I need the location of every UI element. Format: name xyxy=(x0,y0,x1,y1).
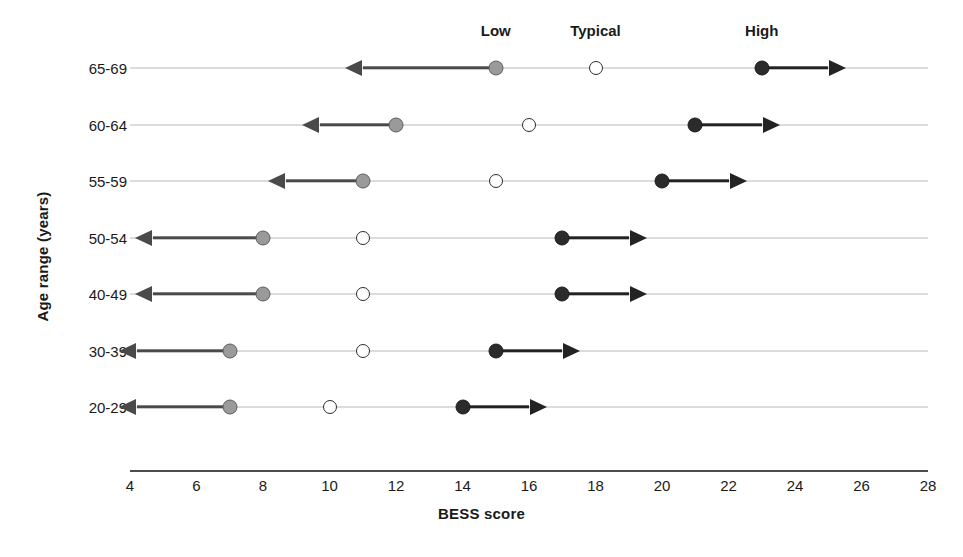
high-range-arrow xyxy=(496,349,563,353)
table-row: 50-54 xyxy=(0,225,963,251)
arrow-head-right-icon xyxy=(630,286,647,302)
table-row: 30-39 xyxy=(0,338,963,364)
arrow-shaft xyxy=(496,349,563,352)
arrow-head-right-icon xyxy=(730,173,747,189)
arrow-shaft xyxy=(153,236,263,239)
y-axis-tick-label: 60-64 xyxy=(55,116,127,133)
y-axis-tick-label: 20-29 xyxy=(55,399,127,416)
low-marker xyxy=(488,61,503,76)
x-axis-tick-label: 24 xyxy=(787,477,804,494)
low-marker xyxy=(256,230,271,245)
legend-label-low: Low xyxy=(481,22,511,39)
x-axis-tick-label: 14 xyxy=(454,477,471,494)
arrow-shaft xyxy=(463,405,530,408)
arrow-shaft xyxy=(137,405,230,408)
high-range-arrow xyxy=(762,66,829,70)
y-axis-tick-label: 30-39 xyxy=(55,342,127,359)
row-baseline xyxy=(130,407,928,408)
arrow-head-left-icon xyxy=(302,117,319,133)
low-range-arrow xyxy=(363,66,496,70)
high-range-arrow xyxy=(662,179,729,183)
high-marker xyxy=(488,343,503,358)
arrow-head-left-icon xyxy=(119,399,136,415)
arrow-head-left-icon xyxy=(119,343,136,359)
typical-marker xyxy=(522,118,536,132)
arrow-head-right-icon xyxy=(630,230,647,246)
table-row: 20-29 xyxy=(0,394,963,420)
row-baseline xyxy=(130,181,928,182)
x-axis-line xyxy=(130,470,928,472)
low-range-arrow xyxy=(137,405,230,409)
table-row: 55-59 xyxy=(0,168,963,194)
arrow-head-right-icon xyxy=(829,60,846,76)
high-range-arrow xyxy=(695,123,762,127)
high-range-arrow xyxy=(562,292,629,296)
high-marker xyxy=(455,400,470,415)
arrow-head-left-icon xyxy=(268,173,285,189)
typical-marker xyxy=(489,174,503,188)
y-axis-tick-label: 65-69 xyxy=(55,60,127,77)
bess-score-chart: Age range (years) 65-6960-6455-5950-5440… xyxy=(0,0,963,557)
x-axis-tick-label: 8 xyxy=(259,477,267,494)
low-range-arrow xyxy=(153,292,263,296)
typical-marker xyxy=(356,344,370,358)
high-marker xyxy=(555,230,570,245)
x-axis-tick-label: 28 xyxy=(920,477,937,494)
low-range-arrow xyxy=(137,349,230,353)
x-axis-tick-label: 10 xyxy=(321,477,338,494)
high-range-arrow xyxy=(463,405,530,409)
low-range-arrow xyxy=(286,179,362,183)
arrow-shaft xyxy=(562,292,629,295)
x-axis-tick-label: 6 xyxy=(192,477,200,494)
arrow-shaft xyxy=(562,236,629,239)
typical-marker xyxy=(356,287,370,301)
x-axis-tick-label: 26 xyxy=(853,477,870,494)
low-range-arrow xyxy=(320,123,396,127)
low-marker xyxy=(355,174,370,189)
legend-label-typical: Typical xyxy=(570,22,621,39)
high-marker xyxy=(754,61,769,76)
high-range-arrow xyxy=(562,236,629,240)
arrow-head-left-icon xyxy=(135,230,152,246)
arrow-shaft xyxy=(137,349,230,352)
plot-area: 65-6960-6455-5950-5440-4930-3920-29 xyxy=(0,0,963,557)
arrow-head-right-icon xyxy=(563,343,580,359)
x-axis-tick-label: 20 xyxy=(654,477,671,494)
high-marker xyxy=(688,117,703,132)
table-row: 40-49 xyxy=(0,281,963,307)
legend-label-high: High xyxy=(745,22,778,39)
arrow-head-right-icon xyxy=(763,117,780,133)
typical-marker xyxy=(589,61,603,75)
y-axis-tick-label: 40-49 xyxy=(55,286,127,303)
arrow-shaft xyxy=(320,123,396,126)
arrow-shaft xyxy=(363,66,496,69)
high-marker xyxy=(655,174,670,189)
high-marker xyxy=(555,287,570,302)
arrow-shaft xyxy=(662,179,729,182)
x-axis-title: BESS score xyxy=(0,505,963,522)
table-row: 65-69 xyxy=(0,55,963,81)
arrow-shaft xyxy=(153,292,263,295)
low-marker xyxy=(389,117,404,132)
y-axis-tick-label: 55-59 xyxy=(55,173,127,190)
arrow-shaft xyxy=(762,66,829,69)
x-axis-tick-label: 4 xyxy=(126,477,134,494)
x-axis-tick-label: 22 xyxy=(720,477,737,494)
table-row: 60-64 xyxy=(0,112,963,138)
y-axis-tick-label: 50-54 xyxy=(55,229,127,246)
arrow-head-right-icon xyxy=(530,399,547,415)
low-marker xyxy=(222,343,237,358)
arrow-shaft xyxy=(695,123,762,126)
x-axis-tick-label: 12 xyxy=(388,477,405,494)
x-axis-tick-label: 16 xyxy=(521,477,538,494)
low-marker xyxy=(222,400,237,415)
x-axis-tick-label: 18 xyxy=(587,477,604,494)
typical-marker xyxy=(356,231,370,245)
low-range-arrow xyxy=(153,236,263,240)
typical-marker xyxy=(323,400,337,414)
arrow-head-left-icon xyxy=(345,60,362,76)
arrow-shaft xyxy=(286,179,362,182)
arrow-head-left-icon xyxy=(135,286,152,302)
low-marker xyxy=(256,287,271,302)
